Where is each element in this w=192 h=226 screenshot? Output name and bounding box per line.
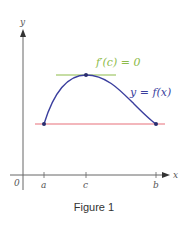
point-b — [154, 122, 158, 126]
tangent-label: f′(c) = 0 — [95, 56, 141, 69]
figure-caption: Figure 1 — [74, 201, 114, 213]
x-axis-arrow-icon — [162, 172, 170, 178]
point-c-peak — [84, 73, 88, 77]
curve-label: y = f(x) — [129, 86, 171, 99]
point-a — [42, 122, 46, 126]
tick-label-a: a — [41, 180, 46, 190]
rolles-theorem-figure: y x 0 a c b f′(c) = 0 y = f(x) Figure 1 — [0, 0, 192, 226]
origin-label: 0 — [14, 178, 20, 188]
function-curve — [44, 75, 156, 124]
y-axis-arrow-icon — [20, 29, 26, 37]
x-axis-label: x — [173, 170, 178, 180]
y-axis: y — [19, 17, 26, 190]
tick-label-b: b — [153, 180, 159, 190]
tick-label-c: c — [83, 180, 88, 190]
y-axis-label: y — [19, 17, 26, 27]
